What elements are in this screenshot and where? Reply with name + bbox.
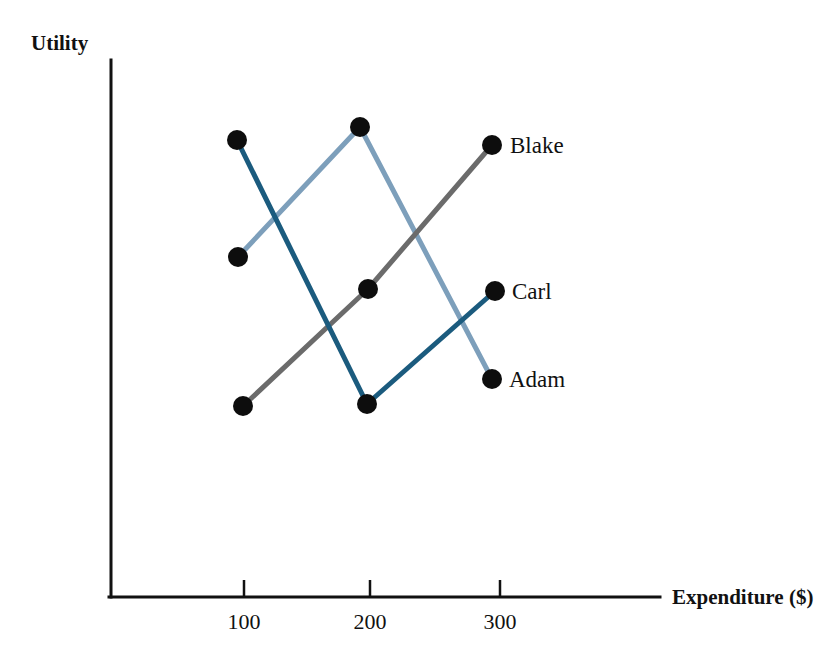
- x-axis-ticks: [244, 580, 500, 597]
- data-point-adam-200: [350, 117, 370, 137]
- data-point-blake-200: [358, 279, 378, 299]
- data-point-adam-100: [228, 247, 248, 267]
- series-label-carl: Carl: [512, 279, 552, 304]
- utility-expenditure-line-chart: Utility Expenditure ($) 100 200 300: [0, 0, 830, 653]
- y-axis-title: Utility: [31, 31, 89, 55]
- x-tick-label-1: 100: [228, 609, 261, 634]
- x-axis-tick-labels: 100 200 300: [228, 609, 517, 634]
- data-point-carl-100: [227, 130, 247, 150]
- chart-figure: Utility Expenditure ($) 100 200 300: [0, 0, 830, 653]
- series-label-blake: Blake: [510, 133, 564, 158]
- series-line-blake: [243, 145, 492, 406]
- series-labels-group: Blake Carl Adam: [509, 133, 565, 392]
- data-point-blake-300: [482, 135, 502, 155]
- data-point-adam-300: [482, 369, 502, 389]
- x-tick-label-3: 300: [484, 609, 517, 634]
- data-point-markers-group: [227, 117, 505, 416]
- data-point-carl-300: [485, 281, 505, 301]
- series-lines-group: [237, 127, 495, 406]
- series-label-adam: Adam: [509, 367, 565, 392]
- data-point-blake-100: [233, 396, 253, 416]
- data-point-carl-200: [357, 394, 377, 414]
- x-axis-title: Expenditure ($): [672, 585, 813, 609]
- series-line-adam: [238, 127, 492, 379]
- x-tick-label-2: 200: [354, 609, 387, 634]
- series-line-carl: [237, 140, 495, 404]
